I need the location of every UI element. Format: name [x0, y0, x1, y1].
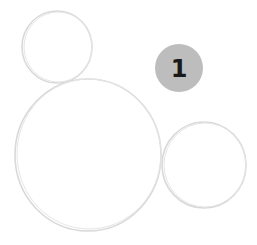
badge-label: 1 — [171, 55, 188, 83]
circle-large-center — [15, 79, 161, 231]
number-badge: 1 — [155, 44, 203, 92]
circle-small-top-left — [22, 11, 92, 83]
diagram-canvas: 1 — [0, 0, 257, 245]
circle-medium-right — [162, 122, 246, 208]
